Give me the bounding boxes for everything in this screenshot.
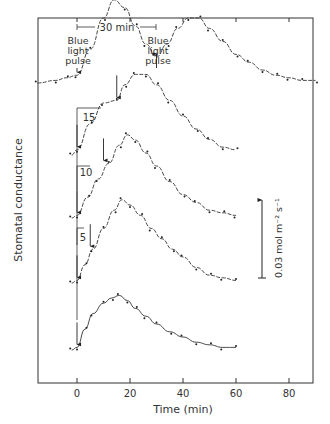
pulse-arrows xyxy=(77,54,157,344)
svg-text:pulse: pulse xyxy=(65,55,91,66)
svg-text:10: 10 xyxy=(80,167,93,178)
x-tick-labels: 020 4060 80 xyxy=(74,388,296,399)
trace-3 xyxy=(72,135,236,218)
trace-2 xyxy=(72,74,236,155)
x-axis-label: Time (min) xyxy=(152,403,213,416)
svg-text:80: 80 xyxy=(283,388,296,399)
trace-5 xyxy=(72,295,236,350)
x-ticks xyxy=(77,378,289,383)
trace-4 xyxy=(72,200,236,283)
bracket-label: 30 min xyxy=(100,22,135,33)
scale-bar xyxy=(258,200,266,278)
pulse-label-2: Bluelightpulse xyxy=(145,35,171,66)
svg-text:0: 0 xyxy=(74,388,80,399)
plot-frame xyxy=(38,18,313,383)
svg-text:20: 20 xyxy=(124,388,137,399)
chart: 020 4060 80 Time (min) Stomatal conducta… xyxy=(0,0,330,424)
svg-text:15: 15 xyxy=(83,112,96,123)
interval-markers xyxy=(77,108,101,320)
svg-text:40: 40 xyxy=(177,388,190,399)
interval-labels: 15 10 5 xyxy=(80,112,96,243)
scale-bar-label: 0.03 mol m⁻² s⁻¹ xyxy=(273,198,284,278)
svg-text:60: 60 xyxy=(230,388,243,399)
y-axis-label: Stomatal conductance xyxy=(12,138,25,262)
svg-text:5: 5 xyxy=(80,232,86,243)
pulse-label-1: Bluelightpulse xyxy=(65,35,91,66)
